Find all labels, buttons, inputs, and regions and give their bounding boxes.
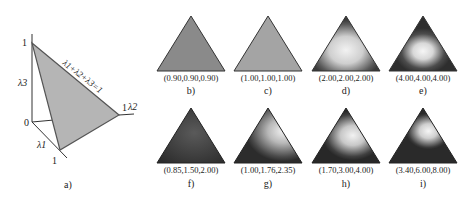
lambda3-label: λ3 (17, 77, 27, 88)
lambda2-axis-ext (119, 114, 134, 115)
tick-bottom: 1 (52, 155, 57, 166)
density-triangle-h (312, 108, 380, 163)
caption-g: g) (264, 178, 272, 189)
caption-f: f) (188, 178, 195, 189)
panel-a-simplex: 1 0 1 1 λ3 λ1 λ2 λ1+λ2+λ3=1 a) (17, 34, 137, 191)
caption-c: c) (264, 85, 272, 96)
caption-d: d) (342, 85, 350, 96)
caption-i: i) (420, 178, 426, 189)
simplex-triangle (32, 43, 119, 150)
params-b: (0.90,0.90,0.90) (164, 73, 219, 83)
params-f: (0.85,1.50,2.00) (164, 165, 219, 175)
density-triangle-b (157, 16, 225, 71)
params-i: (3.40,6.00,8.00) (396, 165, 451, 175)
tick-origin: 0 (24, 117, 29, 128)
params-h: (1.70,3.00,4.00) (319, 165, 374, 175)
params-e: (4.00,4.00,4.00) (396, 73, 451, 83)
density-triangle-g (234, 108, 302, 163)
density-triangle-d (312, 16, 380, 71)
params-c: (1.00,1.00,1.00) (241, 73, 296, 83)
caption-e: e) (419, 85, 427, 96)
lambda2-axis (32, 120, 54, 122)
tick-top: 1 (22, 37, 27, 48)
lambda2-label: λ2 (127, 101, 137, 112)
params-g: (1.00,1.76,2.35) (241, 165, 296, 175)
caption-h: h) (342, 178, 350, 189)
density-triangle-e (389, 16, 457, 71)
params-d: (2.00,2.00,2.00) (319, 73, 374, 83)
density-triangle-f (157, 108, 225, 163)
density-triangle-i (389, 108, 457, 163)
density-triangle-c (234, 16, 302, 71)
caption-b: b) (187, 85, 195, 96)
tick-right: 1 (122, 102, 127, 113)
lambda1-label: λ1 (36, 139, 46, 150)
caption-a: a) (64, 179, 72, 191)
